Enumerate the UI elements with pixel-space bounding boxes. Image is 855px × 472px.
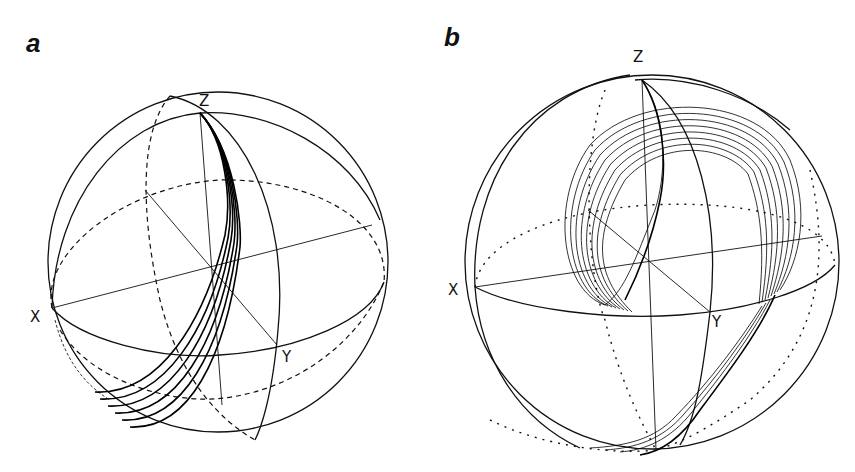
- axis-label-x: X: [448, 281, 458, 299]
- axis-label-y: Y: [282, 348, 291, 366]
- axis-label-x: X: [30, 308, 40, 326]
- axis-label-z: Z: [633, 48, 643, 66]
- great-circle-left: [475, 75, 630, 448]
- axis-label-y: Y: [712, 313, 721, 331]
- equator-front: [475, 265, 835, 316]
- trajectory-bundle-a: [55, 113, 240, 427]
- equator-back: [51, 180, 384, 308]
- meridian-back: [589, 90, 656, 450]
- axis-label-z: Z: [199, 92, 209, 110]
- panel-a: a Z X Y: [0, 0, 430, 472]
- meridian-back: [146, 96, 255, 440]
- meridian-front: [642, 80, 712, 445]
- sphere-diagram-a: [0, 0, 430, 472]
- great-circle-upper: [52, 113, 380, 308]
- trajectory-loops-b: [565, 80, 801, 455]
- axis-y-line: [145, 190, 277, 345]
- panel-b: b: [430, 0, 855, 472]
- sphere-diagram-b: [430, 0, 855, 472]
